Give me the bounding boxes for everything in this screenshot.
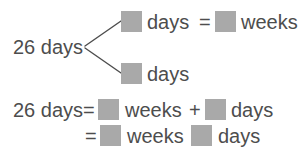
blank-box-equation-1-weeks[interactable] xyxy=(98,99,119,120)
blank-box-equation-1-days[interactable] xyxy=(205,99,226,120)
blank-box-equation-2-weeks[interactable] xyxy=(100,125,121,146)
equation-2-unit-days: days xyxy=(218,126,260,146)
blank-box-branch-upper-weeks[interactable] xyxy=(215,11,236,32)
branch-upper-unit-weeks: weeks xyxy=(241,12,298,32)
blank-box-branch-lower-days[interactable] xyxy=(121,63,142,84)
branch-source-label: 26 days xyxy=(13,37,83,57)
equation-1-plus-sign: + xyxy=(189,100,201,120)
equation-1-unit-days: days xyxy=(231,100,273,120)
branch-line-lower xyxy=(85,48,121,73)
blank-box-equation-2-days[interactable] xyxy=(191,125,212,146)
worksheet-canvas: 26 days days = weeks days 26 days = week… xyxy=(0,0,301,154)
blank-box-branch-upper-days[interactable] xyxy=(121,11,142,32)
equation-1-equals-sign: = xyxy=(83,100,95,120)
branch-upper-unit-days: days xyxy=(147,12,189,32)
equation-2-unit-weeks: weeks xyxy=(127,126,184,146)
equation-1-lead-label: 26 days xyxy=(13,100,83,120)
branch-upper-equals-sign: = xyxy=(199,12,211,32)
branch-line-upper xyxy=(85,21,121,46)
equation-1-unit-weeks: weeks xyxy=(125,100,182,120)
equation-2-equals-sign: = xyxy=(85,126,97,146)
branch-lower-unit-days: days xyxy=(147,64,189,84)
